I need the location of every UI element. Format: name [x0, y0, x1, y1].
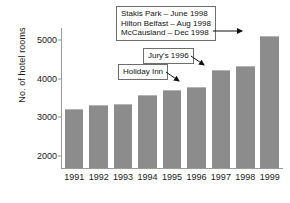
y-tick-label: 3000 — [23, 112, 57, 122]
bar-slot-1991 — [65, 28, 84, 168]
y-tick-label: 4000 — [23, 74, 57, 84]
x-tick-label-1995: 1995 — [160, 172, 184, 182]
bar-1999 — [260, 36, 279, 168]
x-tick-label-1997: 1997 — [209, 172, 233, 182]
annotation-line: McCausland – Dec 1998 — [121, 28, 211, 38]
bar-1998 — [236, 66, 255, 168]
bar-1996 — [187, 87, 206, 168]
annotation-callout-holiday-inn: Holiday Inn — [118, 64, 168, 80]
y-tick-label: 5000 — [23, 35, 57, 45]
x-axis-line — [61, 168, 283, 169]
y-axis-title: No. of hotel rooms — [17, 5, 27, 125]
x-tick-label-1992: 1992 — [86, 172, 110, 182]
annotation-line: Stakis Park – June 1998 — [121, 9, 211, 19]
annotation-line: Hilton Belfast – Aug 1998 — [121, 19, 211, 29]
bar-1994 — [138, 95, 157, 168]
bar-slot-1998 — [236, 28, 255, 168]
bar-1995 — [163, 90, 182, 168]
x-tick-label-1991: 1991 — [62, 172, 86, 182]
annotation-callout-jurys: Jury's 1996 — [143, 48, 194, 64]
bar-1991 — [65, 109, 84, 169]
bar-1992 — [89, 105, 108, 168]
x-tick-label-1993: 1993 — [111, 172, 135, 182]
x-tick-label-1998: 1998 — [233, 172, 257, 182]
y-tick-label: 2000 — [23, 151, 57, 161]
bar-slot-1993 — [114, 28, 133, 168]
bar-slot-1999 — [260, 28, 279, 168]
annotation-callout-stakis-hilton-mccausland: Stakis Park – June 1998 Hilton Belfast –… — [116, 6, 216, 41]
x-tick-label-1999: 1999 — [258, 172, 282, 182]
annotation-line: Jury's 1996 — [148, 51, 189, 61]
bar-slot-1997 — [212, 28, 231, 168]
bar-1993 — [114, 104, 133, 168]
x-tick-label-1996: 1996 — [184, 172, 208, 182]
bar-slot-1992 — [89, 28, 108, 168]
bar-1997 — [212, 70, 231, 168]
annotation-line: Holiday Inn — [123, 67, 163, 77]
hotel-rooms-bar-chart: No. of hotel rooms 2000300040005000 1991… — [0, 0, 290, 203]
x-tick-label-1994: 1994 — [135, 172, 159, 182]
